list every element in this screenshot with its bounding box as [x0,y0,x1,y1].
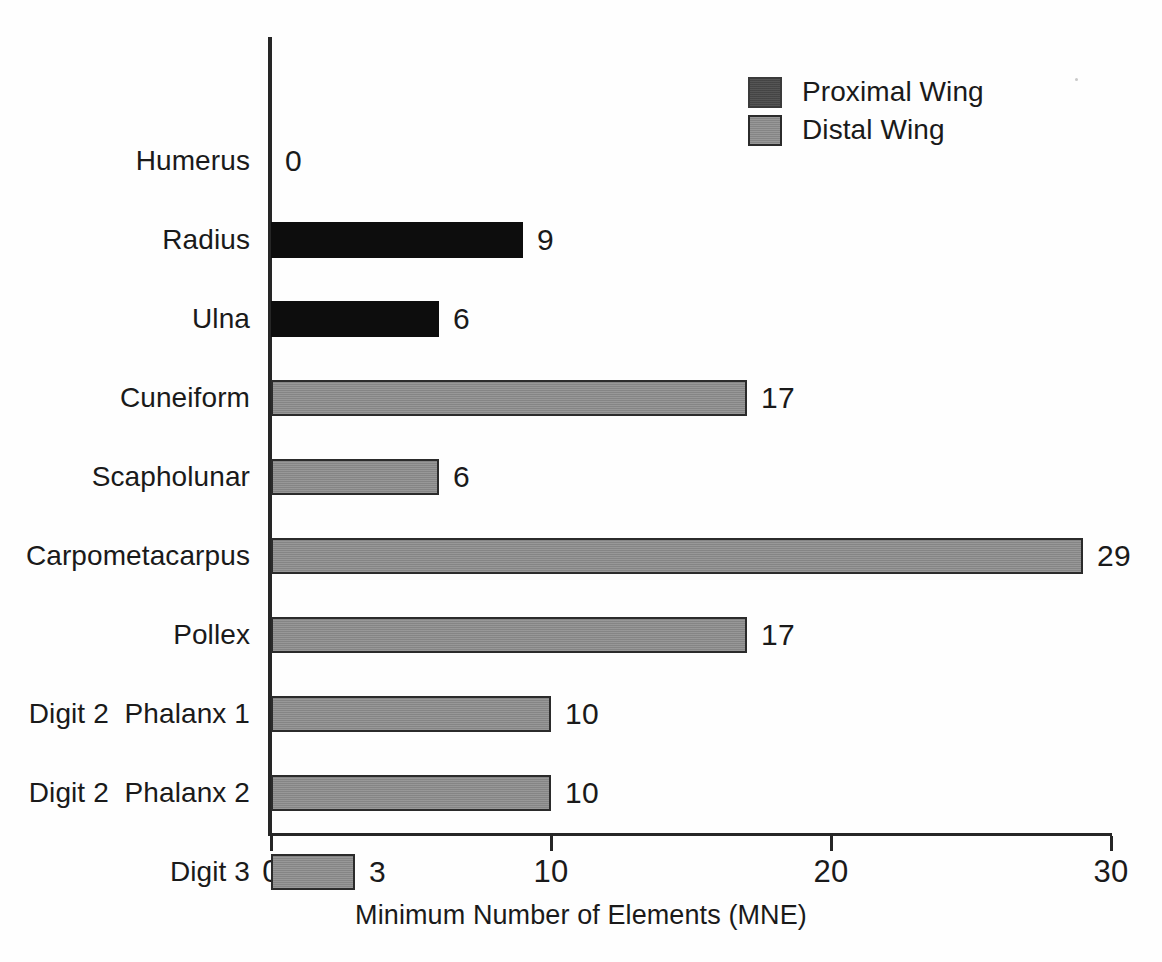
bar-row: Digit 33 [0,854,1162,890]
legend-item-proximal-wing: Proximal Wing [748,74,984,110]
legend-label-proximal-wing: Proximal Wing [802,75,984,109]
bar-value-label: 6 [453,459,470,495]
bar [271,301,439,337]
bar-row: Radius9 [0,222,1162,258]
legend-swatch-icon-distal-wing [748,115,782,146]
bar-value-label: 17 [761,380,795,416]
bar-value-label: 10 [565,696,599,732]
category-label: Scapholunar [0,459,250,495]
legend-swatch-icon-proximal-wing [748,77,782,108]
bar-row: Scapholunar6 [0,459,1162,495]
bar [271,617,747,653]
bar-value-label: 0 [285,143,302,179]
category-label: Pollex [0,617,250,653]
chart-legend: Proximal Wing Distal Wing [748,74,984,150]
x-axis-title: Minimum Number of Elements (MNE) [0,898,1162,932]
bar [271,854,355,890]
bar-row: Ulna6 [0,301,1162,337]
bar-row: Pollex17 [0,617,1162,653]
bar-row: Digit 2 Phalanx 110 [0,696,1162,732]
bar-row: Cuneiform17 [0,380,1162,416]
bar-value-label: 29 [1097,538,1131,574]
x-axis-tick [830,836,833,851]
category-label: Digit 2 Phalanx 2 [0,775,250,811]
bar [271,222,523,258]
bar-value-label: 9 [537,222,554,258]
bar [271,459,439,495]
x-axis-line [268,833,1112,836]
category-label: Digit 3 [0,854,250,890]
bar-value-label: 17 [761,617,795,653]
bar-value-label: 10 [565,775,599,811]
bar-row: Carpometacarpus29 [0,538,1162,574]
legend-item-distal-wing: Distal Wing [748,112,984,148]
bar-row: Digit 2 Phalanx 210 [0,775,1162,811]
category-label: Carpometacarpus [0,538,250,574]
x-axis-tick [270,836,273,851]
category-label: Radius [0,222,250,258]
bar [271,775,551,811]
x-axis-tick [550,836,553,851]
bar [271,696,551,732]
category-label: Digit 2 Phalanx 1 [0,696,250,732]
scan-speck [1075,78,1078,81]
legend-label-distal-wing: Distal Wing [802,113,945,147]
bar [271,538,1083,574]
bar-value-label: 6 [453,301,470,337]
bar-chart: 0102030 Humerus0Radius9Ulna6Cuneiform17S… [0,0,1162,962]
bar-row: Humerus0 [0,143,1162,179]
x-axis-tick [1110,836,1113,851]
bar-value-label: 3 [369,854,386,890]
category-label: Ulna [0,301,250,337]
category-label: Cuneiform [0,380,250,416]
bar [271,380,747,416]
category-label: Humerus [0,143,250,179]
